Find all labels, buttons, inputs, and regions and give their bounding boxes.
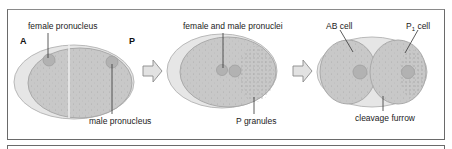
label-female-pronucleus: female pronucleus bbox=[28, 21, 97, 31]
ab-nucleus bbox=[353, 65, 367, 79]
female-pronucleus bbox=[43, 54, 55, 66]
label-male-pronucleus: male pronucleus bbox=[89, 116, 151, 126]
p-granules-region bbox=[238, 46, 274, 102]
stage3-embryo: AB cell P1 cell cleavage furrow bbox=[317, 21, 430, 123]
female-pronucleus bbox=[217, 65, 228, 76]
stage2-embryo: female and male pronuclei P granules bbox=[167, 21, 283, 126]
stage1-embryo: female pronucleus A P male pronucleus bbox=[14, 21, 151, 126]
label-cleavage-furrow: cleavage furrow bbox=[355, 113, 416, 123]
label-pronuclei: female and male pronuclei bbox=[183, 21, 283, 31]
p1-nucleus bbox=[402, 66, 415, 79]
male-pronucleus bbox=[229, 65, 241, 77]
label-ab-cell: AB cell bbox=[326, 21, 353, 31]
label-p1-cell: P1 cell bbox=[406, 21, 430, 32]
embryo-diagram: female pronucleus A P male pronucleus fe… bbox=[0, 0, 452, 149]
arrow-icon bbox=[293, 60, 312, 82]
label-p-granules: P granules bbox=[236, 116, 276, 126]
arrow-icon bbox=[143, 60, 162, 82]
label-posterior: P bbox=[129, 36, 135, 46]
label-anterior: A bbox=[20, 36, 27, 46]
